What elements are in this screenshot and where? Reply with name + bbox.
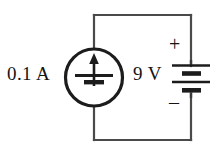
battery-voltage-label: 9 V <box>133 64 162 83</box>
battery-negative-terminal-label: – <box>169 92 179 112</box>
source-plate-short <box>84 80 104 84</box>
current-source-symbol <box>66 49 123 106</box>
circuit-diagram: 0.1 A 9 V + – <box>0 0 221 150</box>
battery-positive-terminal-label: + <box>169 34 180 54</box>
battery-plate-4-short <box>182 88 201 93</box>
battery-plate-2-short <box>182 71 201 76</box>
current-source-label: 0.1 A <box>7 64 50 83</box>
